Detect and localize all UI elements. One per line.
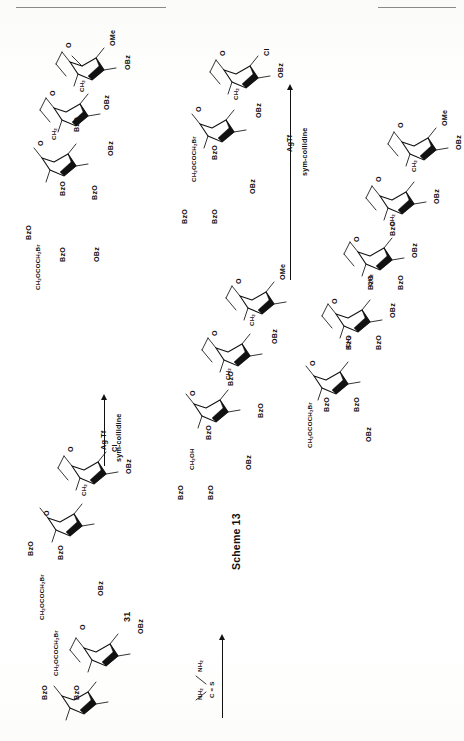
arrow-agtf-right-shaft bbox=[290, 90, 291, 280]
atom-label-bzo-5: BzO bbox=[58, 247, 67, 262]
reagent-label-c-double-s: C = S bbox=[208, 681, 215, 698]
atom-label-obz-midup-3: OBz bbox=[248, 179, 257, 194]
reagent-label-nh2-top: NH2 bbox=[196, 688, 204, 700]
atom-label-ch2-mid-1: CH2 bbox=[248, 314, 256, 326]
reagent-label-nh2-bottom: NH2 bbox=[196, 660, 204, 672]
structure-top-left-trisaccharide-bonds bbox=[34, 48, 116, 182]
atom-label-bzo-midup-3: BzO bbox=[210, 209, 219, 224]
atom-label-bottom-bzo-2: BzO bbox=[72, 685, 81, 700]
atom-label-bzo-right-5: BzO bbox=[374, 335, 383, 350]
structure-mid-upper-disaccharide-chloride-bonds bbox=[192, 56, 270, 148]
atom-label-ch2-right-2: CH2 bbox=[388, 214, 396, 226]
atom-label-bzo-right-7: BzO bbox=[352, 397, 361, 412]
atom-label-bzo: BzO bbox=[72, 117, 81, 132]
atom-label-bzo-mid-3: BzO bbox=[204, 425, 213, 440]
arrow-thiourea-head bbox=[219, 634, 225, 640]
atom-label-ch2-right-4: CH2 bbox=[344, 336, 352, 348]
atom-label-ch2oh-mid: CH2OH bbox=[188, 448, 196, 470]
atom-label-bzo-mid-2: BzO bbox=[256, 403, 265, 418]
atom-label-ch2ococh2br: CH2OCOCH2Br bbox=[34, 244, 42, 290]
atom-label-ring-o-3: O bbox=[36, 140, 45, 146]
arrow-thiourea-shaft bbox=[222, 640, 223, 718]
structure-bottom-left-bonds bbox=[54, 634, 130, 720]
arrow-agtf-left-head bbox=[101, 394, 107, 400]
atom-label-ring-o-mid-1: O bbox=[234, 278, 243, 284]
atom-label-ch2-right-1: CH2 bbox=[410, 160, 418, 172]
atom-label-obz-right-2: OBz bbox=[432, 189, 441, 204]
arrow-agtf-right-below-label: sym-collidine bbox=[300, 127, 309, 176]
atom-label-cl-mid: Cl bbox=[262, 48, 271, 56]
atom-label-bzo-left-2: BzO bbox=[26, 541, 35, 556]
atom-label-ring-o-right-5: O bbox=[308, 360, 317, 366]
atom-label-bottom-bzo-1: BzO bbox=[40, 685, 49, 700]
atom-label-ome-right: OMe bbox=[440, 110, 449, 126]
atom-label-obz-right-1: OBz bbox=[454, 135, 463, 150]
atom-label-ring-o-mid-3: O bbox=[188, 390, 197, 396]
atom-label-obz-left-1: OBz bbox=[124, 459, 133, 474]
atom-label-ring-o-right-3: O bbox=[352, 236, 361, 242]
atom-label-obz-mid-2: OBz bbox=[244, 455, 253, 470]
atom-label-obz-midup-2: OBz bbox=[254, 103, 263, 118]
atom-label-ch2-left-1: CH2 bbox=[80, 484, 88, 496]
atom-label-bzo-midup-2: BzO bbox=[180, 209, 189, 224]
atom-label-bzo-midup-1: BzO bbox=[210, 145, 219, 160]
atom-label-ch2-right-3: CH2 bbox=[366, 274, 374, 286]
atom-label-bzo-left-1: BzO bbox=[56, 545, 65, 560]
atom-label-obz: OBz bbox=[123, 55, 132, 70]
atom-label-obz-3: OBz bbox=[106, 141, 115, 156]
structure-right-pentasaccharide-bonds bbox=[306, 128, 448, 400]
scheme-canvas: OMe OBz O CH2 OBz BzO OBz O CH2 BzO BzO … bbox=[0, 0, 464, 741]
scheme-caption: Scheme 13 bbox=[230, 513, 242, 570]
atom-label-ch2-mid-2: CH2 bbox=[224, 368, 232, 380]
structure-left-disaccharide-chloride-bonds bbox=[40, 452, 118, 542]
atom-label-ring-o-right-1: O bbox=[396, 122, 405, 128]
atom-label-ring-o-right-4: O bbox=[330, 298, 339, 304]
atom-label-bzo-2: BzO bbox=[90, 185, 99, 200]
atom-label-ring-o: O bbox=[64, 42, 73, 48]
atom-label-obz-mid-1: OBz bbox=[270, 329, 279, 344]
atom-label-bzo-right-6: BzO bbox=[322, 397, 331, 412]
atom-label-ch2ococh2br-midup: CH2OCOCH2Br bbox=[190, 136, 198, 182]
structure-mid-trisaccharide-bonds bbox=[186, 282, 286, 428]
atom-label-ring-o-2: O bbox=[48, 90, 57, 96]
atom-label-ring-o-midup-2: O bbox=[194, 106, 203, 112]
atom-label-bottom-ch2ococh2br: CH2OCOCH2Br bbox=[52, 630, 60, 676]
atom-label-bottom-obz-1: OBz bbox=[136, 619, 145, 634]
atom-label-bzo-mid-5: BzO bbox=[206, 485, 215, 500]
atom-label-obz-left-2: OBz bbox=[96, 581, 105, 596]
arrow-agtf-right-head bbox=[287, 84, 293, 90]
atom-label-obz-right-3: OBz bbox=[410, 243, 419, 258]
atom-label-ring-o-right-2: O bbox=[374, 176, 383, 182]
atom-label-ring-o-left-1: O bbox=[66, 446, 75, 452]
atom-label-bzo-mid-4: BzO bbox=[176, 485, 185, 500]
atom-label-ring-o-mid-2: O bbox=[210, 330, 219, 336]
compound-number-31: 31 bbox=[122, 612, 132, 622]
atom-label-ring-o-midup-1: O bbox=[218, 50, 227, 56]
atom-label-ch2ococh2br-left: CH2OCOCH2Br bbox=[38, 574, 46, 620]
atom-label-ome: OMe bbox=[108, 30, 117, 46]
atom-label-bzo-4: BzO bbox=[24, 225, 33, 240]
atom-label-obz-2: OBz bbox=[102, 95, 111, 110]
arrow-agtf-left-below-label: sym-collidine bbox=[114, 413, 123, 462]
atom-label-bzo-right-3: BzO bbox=[396, 275, 405, 290]
atom-label-ch2ococh2br-right: CH2OCOCH2Br bbox=[306, 402, 314, 448]
atom-label-obz-midup-1: OBz bbox=[276, 63, 285, 78]
atom-label-ring-o-left-2: O bbox=[42, 510, 51, 516]
atom-label-ch2: CH2 bbox=[78, 80, 86, 92]
arrow-agtf-right-above-label: AgTf bbox=[285, 135, 294, 152]
atom-label-bottom-ring-o-1: O bbox=[78, 624, 87, 630]
arrow-agtf-left-above-label: Ag Tf bbox=[99, 431, 108, 450]
atom-label-obz-right-4: OBz bbox=[388, 303, 397, 318]
atom-label-ch2-midup: CH2 bbox=[232, 88, 240, 100]
atom-label-obz-right-5: OBz bbox=[364, 427, 373, 442]
atom-label-bzo-3: BzO bbox=[58, 181, 67, 196]
atom-label-obz-4: OBz bbox=[92, 247, 101, 262]
atom-label-ome-mid: OMe bbox=[278, 264, 287, 280]
atom-label-ch2-2: CH2 bbox=[50, 128, 58, 140]
